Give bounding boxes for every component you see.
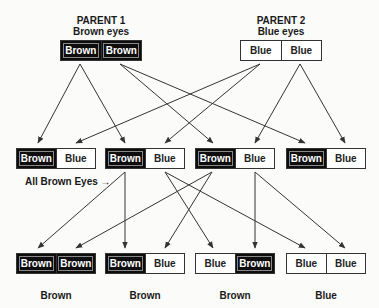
allele-blue: Blue bbox=[235, 149, 275, 168]
note-arrow-icon: → bbox=[101, 176, 111, 187]
allele-blue: Blue bbox=[281, 41, 322, 60]
allele-blue: Blue bbox=[326, 254, 366, 273]
note-text: All Brown Eyes bbox=[25, 176, 98, 187]
allele-brown: Brown bbox=[61, 41, 101, 60]
allele-blue: Blue bbox=[287, 254, 326, 273]
phenotype-label: Brown bbox=[40, 290, 71, 301]
generation1-genotype: BrownBlue bbox=[105, 148, 185, 169]
phenotype-label: Blue bbox=[315, 290, 337, 301]
allele-brown: Brown bbox=[235, 254, 275, 273]
generation1-genotype: BrownBlue bbox=[16, 148, 96, 169]
generation2-genotype: BlueBrown bbox=[195, 253, 275, 274]
parent-phenotype: Blue eyes bbox=[258, 26, 305, 37]
generation2-genotype: BrownBlue bbox=[105, 253, 185, 274]
allele-brown: Brown bbox=[56, 254, 96, 273]
allele-blue: Blue bbox=[241, 41, 281, 60]
allele-blue: Blue bbox=[196, 254, 235, 273]
all-brown-eyes-note: All Brown Eyes → bbox=[25, 176, 111, 187]
allele-blue: Blue bbox=[145, 254, 185, 273]
generation2-genotype: BlueBlue bbox=[286, 253, 366, 274]
parent-title: PARENT 2 bbox=[257, 15, 306, 26]
allele-brown: Brown bbox=[101, 41, 142, 60]
parent-1-genotype: BrownBrown bbox=[60, 40, 142, 61]
inheritance-arrow bbox=[38, 64, 80, 143]
inheritance-arrow bbox=[300, 64, 345, 143]
allele-brown: Brown bbox=[106, 254, 145, 273]
generation1-genotype: BrownBlue bbox=[195, 148, 275, 169]
allele-blue: Blue bbox=[145, 149, 185, 168]
parent-phenotype: Brown eyes bbox=[73, 26, 129, 37]
allele-brown: Brown bbox=[17, 149, 56, 168]
inheritance-arrow bbox=[255, 172, 345, 248]
allele-brown: Brown bbox=[287, 149, 326, 168]
parent-2-genotype: BlueBlue bbox=[240, 40, 322, 61]
allele-brown: Brown bbox=[17, 254, 56, 273]
generation2-genotype: BrownBrown bbox=[16, 253, 96, 274]
phenotype-label: Brown bbox=[129, 290, 160, 301]
allele-blue: Blue bbox=[326, 149, 366, 168]
inheritance-arrow bbox=[120, 64, 213, 143]
parent-title: PARENT 1 bbox=[77, 15, 126, 26]
inheritance-arrow bbox=[76, 64, 260, 143]
allele-blue: Blue bbox=[56, 149, 96, 168]
generation1-genotype: BrownBlue bbox=[286, 148, 366, 169]
allele-brown: Brown bbox=[196, 149, 235, 168]
phenotype-label: Brown bbox=[219, 290, 250, 301]
allele-brown: Brown bbox=[106, 149, 145, 168]
inheritance-arrow bbox=[165, 172, 305, 248]
inheritance-arrow bbox=[165, 64, 260, 143]
